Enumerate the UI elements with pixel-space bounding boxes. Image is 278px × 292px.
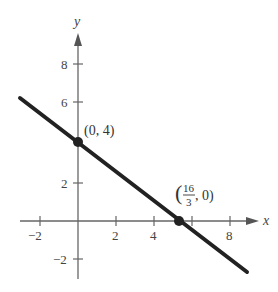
svg-text:3: 3: [186, 196, 192, 208]
point-label-x-intercept: ( 16 3 , 0): [175, 180, 214, 208]
x-tick-label: 8: [226, 228, 233, 243]
svg-text:16: 16: [183, 182, 195, 194]
point-label-y-intercept: (0, 4): [84, 123, 115, 139]
point-y-intercept: [73, 137, 83, 147]
y-tick-label: 2: [61, 176, 68, 191]
data-line: [20, 98, 247, 272]
x-tick-label: −2: [28, 228, 42, 243]
svg-text:(: (: [175, 180, 182, 205]
x-tick-label: 4: [150, 228, 157, 243]
y-axis-label: y: [72, 14, 81, 29]
x-axis-label: x: [262, 213, 270, 228]
point-x-intercept: [174, 216, 184, 226]
x-axis-arrow-icon: [246, 217, 259, 225]
y-tick-label: 8: [61, 57, 68, 72]
chart: x y −2 2 4 8 8 6 2 −2 (0, 4) ( 16 3 , 0): [0, 0, 278, 292]
y-tick-label: 6: [61, 95, 68, 110]
y-tick-label: −2: [53, 252, 67, 267]
y-axis-arrow-icon: [74, 33, 82, 46]
x-tick-label: 2: [112, 228, 119, 243]
svg-text:, 0): , 0): [195, 188, 214, 204]
